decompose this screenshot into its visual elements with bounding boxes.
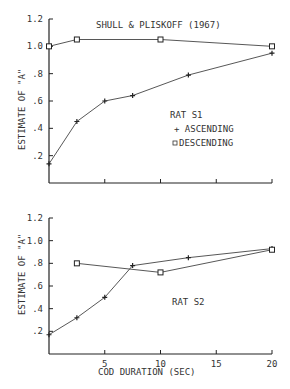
series-line-ascending: [49, 53, 272, 164]
chart-title: SHULL & PLISKOFF (1967): [96, 20, 221, 30]
legend-descending: DESCENDING: [179, 138, 233, 148]
panel-rat-s1: .2.4.6.81.01.2: [27, 14, 275, 183]
y-tick-label: 1.0: [27, 236, 43, 246]
y-tick-label: .6: [32, 281, 43, 291]
square-marker-icon: [158, 270, 163, 275]
y-tick-label: .8: [32, 258, 43, 268]
legend-ascending: + ASCENDING: [174, 124, 234, 134]
y-tick-label: .4: [32, 304, 43, 314]
panel-label-s2: RAT S2: [172, 297, 205, 307]
panel-label-s1: RAT S1: [170, 110, 203, 120]
plus-marker-icon: [270, 51, 275, 56]
square-marker-icon: [158, 37, 163, 42]
y-tick-label: .4: [32, 123, 43, 133]
legend-square-icon: [173, 141, 177, 145]
x-tick-label: 20: [267, 359, 278, 369]
square-marker-icon: [47, 44, 52, 49]
square-marker-icon: [74, 37, 79, 42]
y-tick-label: 1.0: [27, 41, 43, 51]
y-tick-label: .8: [32, 69, 43, 79]
square-marker-icon: [74, 261, 79, 266]
chart: .2.4.6.81.01.2 .2.4.6.81.01.25101520 SHU…: [0, 0, 290, 389]
x-axis-label: COD DURATION (SEC): [98, 367, 196, 377]
y-tick-label: 1.2: [27, 213, 43, 223]
y-tick-label: .2: [32, 151, 43, 161]
y-tick-label: 1.2: [27, 14, 43, 24]
y-tick-label: .2: [32, 326, 43, 336]
square-marker-icon: [270, 247, 275, 252]
series-line-descending: [77, 250, 272, 273]
x-tick-label: 15: [211, 359, 222, 369]
series-line-ascending: [49, 249, 272, 335]
plus-marker-icon: [47, 332, 52, 337]
square-marker-icon: [270, 44, 275, 49]
plus-marker-icon: [130, 93, 135, 98]
panel-rat-s2: .2.4.6.81.01.25101520: [27, 213, 278, 369]
y-axis-label-bottom: ESTIMATE OF "A": [17, 234, 27, 315]
plus-marker-icon: [186, 73, 191, 78]
plus-marker-icon: [186, 255, 191, 260]
plus-marker-icon: [47, 161, 52, 166]
y-tick-label: .6: [32, 96, 43, 106]
y-axis-label-top: ESTIMATE OF "A": [17, 69, 27, 150]
